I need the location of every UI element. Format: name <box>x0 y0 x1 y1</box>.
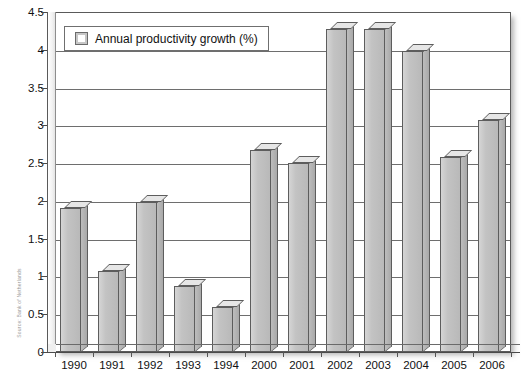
x-axis-tick-label: 2002 <box>327 359 353 371</box>
gridline <box>56 89 510 90</box>
x-axis-tick-mark <box>397 352 398 357</box>
y-axis-tick-mark <box>41 88 48 89</box>
plot-area <box>55 12 511 352</box>
x-axis-tick-mark <box>55 352 56 357</box>
x-axis-tick-label: 2001 <box>289 359 315 371</box>
y-axis-tick-mark <box>41 125 48 126</box>
x-axis-back-line <box>56 344 520 345</box>
gridline <box>56 315 510 316</box>
x-axis-tick-label: 2005 <box>441 359 467 371</box>
x-axis-tick-mark <box>511 352 512 357</box>
y-axis-tick-mark <box>41 239 48 240</box>
x-axis-tick-mark <box>207 352 208 357</box>
y-axis-tick-mark <box>41 201 48 202</box>
gridline <box>56 277 510 278</box>
y-axis-tick-mark <box>41 50 48 51</box>
x-axis-tick-label: 2000 <box>251 359 277 371</box>
x-axis-tick-mark <box>473 352 474 357</box>
x-axis-tick-label: 1994 <box>213 359 239 371</box>
x-axis-tick-label: 1993 <box>175 359 201 371</box>
x-axis-tick-label: 1992 <box>137 359 163 371</box>
gridlines <box>56 13 510 351</box>
x-axis-tick-label: 1990 <box>61 359 87 371</box>
x-axis-tick-label: 1991 <box>99 359 125 371</box>
x-axis-tick-mark <box>283 352 284 357</box>
x-axis-tick-label: 2006 <box>479 359 505 371</box>
productivity-growth-bar-chart: Source: Bank of Netherlands 00.511.522.5… <box>0 0 528 386</box>
gridline <box>56 202 510 203</box>
x-axis-tick-mark <box>169 352 170 357</box>
gridline <box>56 51 510 52</box>
y-axis-tick-mark <box>41 314 48 315</box>
x-axis-tick-mark <box>321 352 322 357</box>
x-axis-tick-mark <box>131 352 132 357</box>
x-axis-tick-mark <box>93 352 94 357</box>
y-axis-tick-mark <box>41 12 48 13</box>
y-axis: 00.511.522.533.544.5 <box>0 0 44 386</box>
y-axis-tick-mark <box>41 276 48 277</box>
gridline <box>56 126 510 127</box>
square-swatch-icon <box>75 32 88 45</box>
legend-item-label: Annual productivity growth (%) <box>95 32 258 46</box>
x-axis-tick-mark <box>245 352 246 357</box>
x-axis-tick-label: 2003 <box>365 359 391 371</box>
y-axis-tick-mark <box>41 163 48 164</box>
chart-legend: Annual productivity growth (%) <box>64 26 269 51</box>
gridline <box>56 240 510 241</box>
x-axis-tick-label: 2004 <box>403 359 429 371</box>
x-axis-tick-mark <box>435 352 436 357</box>
x-axis-tick-mark <box>359 352 360 357</box>
gridline <box>56 164 510 165</box>
